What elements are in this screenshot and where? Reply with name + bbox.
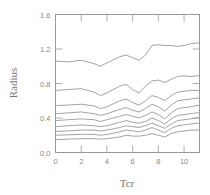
y-tick-label: 1.2 xyxy=(40,45,50,54)
series-line-curve-2 xyxy=(56,76,200,96)
x-axis-title: Tcr xyxy=(120,177,135,189)
series-layer xyxy=(56,43,200,140)
series-line-curve-1 xyxy=(56,43,200,66)
series-line-curve-3 xyxy=(56,90,200,108)
y-tick-label: 0.8 xyxy=(40,80,50,89)
line-chart: 02468100.00.40.81.21.6 Tcr Radius xyxy=(0,0,210,195)
x-tick-label: 0 xyxy=(53,157,57,166)
y-tick-label: 0.4 xyxy=(40,114,50,123)
series-line-curve-7 xyxy=(56,118,200,131)
x-tick-label: 4 xyxy=(105,157,109,166)
x-tick-label: 2 xyxy=(79,157,83,166)
series-line-curve-4 xyxy=(56,98,200,115)
x-tick-label: 8 xyxy=(156,157,160,166)
x-tick-label: 10 xyxy=(180,157,188,166)
y-tick-label: 0.0 xyxy=(40,149,50,158)
y-tick-label: 1.6 xyxy=(40,11,50,20)
labels-layer: 02468100.00.40.81.21.6 xyxy=(40,11,188,166)
x-tick-label: 6 xyxy=(131,157,135,166)
y-axis-title: Radius xyxy=(7,68,19,99)
